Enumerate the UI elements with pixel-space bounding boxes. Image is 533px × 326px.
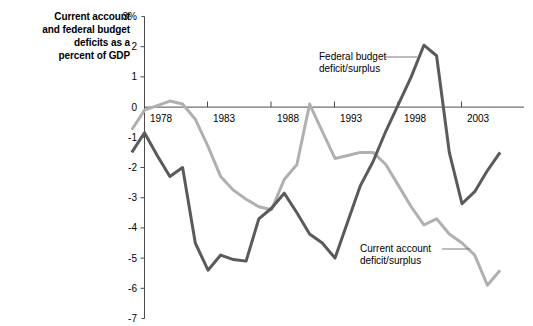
y-tick-label-neg2: -2 xyxy=(128,162,137,173)
x-tick-label-1993: 1993 xyxy=(340,113,363,124)
y-tick-label-neg4: -4 xyxy=(128,222,137,233)
federal-annotation-line1: Federal budget xyxy=(319,51,386,62)
y-tick-label-2: 2 xyxy=(131,41,137,52)
x-tick-label-1988: 1988 xyxy=(277,113,300,124)
chart-figure: Current account and federal budget defic… xyxy=(0,0,533,326)
y-tick-label-1: 1 xyxy=(131,71,137,82)
y-tick-label-neg3: -3 xyxy=(128,192,137,203)
federal-annotation-line2: deficit/surplus xyxy=(319,63,380,74)
series-line-federal-budget xyxy=(132,45,500,270)
x-tick-label-1983: 1983 xyxy=(213,113,236,124)
x-tick-label-1998: 1998 xyxy=(404,113,427,124)
y-tick-label-neg5: -5 xyxy=(128,253,137,264)
y-tick-label-neg6: -6 xyxy=(128,283,137,294)
current-annotation-line2: deficit/surplus xyxy=(360,255,421,266)
x-tick-marks xyxy=(208,102,462,108)
x-tick-label-1978: 1978 xyxy=(150,113,173,124)
y-tick-label-3: 3% xyxy=(123,11,138,22)
chart-plot-area: 3% 2 1 0 -1 -2 -3 -4 -5 -6 -7 1978 1983 … xyxy=(0,0,533,326)
y-tick-marks xyxy=(141,47,145,289)
y-tick-label-0: 0 xyxy=(131,102,137,113)
x-tick-label-2003: 2003 xyxy=(467,113,490,124)
current-annotation-line1: Current account xyxy=(360,243,431,254)
y-tick-label-neg1: -1 xyxy=(128,132,137,143)
y-tick-label-neg7: -7 xyxy=(128,313,137,324)
